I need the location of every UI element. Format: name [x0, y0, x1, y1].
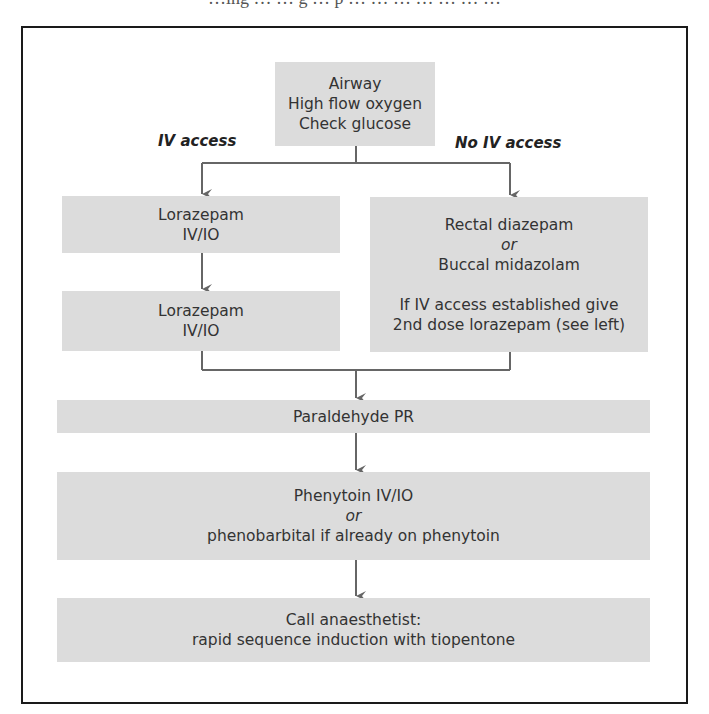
lorazepam2-line-1: Lorazepam — [158, 301, 244, 321]
right-note-line-1: If IV access established give — [400, 295, 619, 315]
anaesthetist-line-1: Call anaesthetist: — [286, 610, 422, 630]
phenytoin-line-or: or — [346, 506, 362, 526]
phenytoin-box: Phenytoin IV/IO or phenobarbital if alre… — [57, 472, 650, 560]
right-note-line-2: 2nd dose lorazepam (see left) — [393, 315, 625, 335]
start-box-airway-oxygen-glucose: Airway High flow oxygen Check glucose — [275, 62, 435, 146]
start-line-2: High flow oxygen — [288, 94, 422, 114]
call-anaesthetist-box: Call anaesthetist: rapid sequence induct… — [57, 598, 650, 662]
lorazepam-first-dose-box: Lorazepam IV/IO — [62, 196, 340, 253]
start-line-1: Airway — [329, 74, 382, 94]
branch-label-no-iv-access: No IV access — [455, 134, 561, 152]
paraldehyde-line: Paraldehyde PR — [293, 407, 414, 427]
lorazepam-second-dose-box: Lorazepam IV/IO — [62, 291, 340, 351]
branch-label-iv-access: IV access — [158, 132, 236, 150]
lorazepam2-line-2: IV/IO — [182, 321, 219, 341]
lorazepam1-line-2: IV/IO — [182, 225, 219, 245]
paraldehyde-box: Paraldehyde PR — [57, 400, 650, 433]
rectal-diazepam-buccal-midazolam-box: Rectal diazepam or Buccal midazolam If I… — [370, 197, 648, 352]
right-line-or: or — [501, 235, 517, 255]
lorazepam1-line-1: Lorazepam — [158, 205, 244, 225]
phenytoin-line-1: Phenytoin IV/IO — [294, 486, 414, 506]
right-line-3: Buccal midazolam — [438, 255, 580, 275]
start-line-3: Check glucose — [299, 114, 411, 134]
phenytoin-line-3: phenobarbital if already on phenytoin — [207, 526, 500, 546]
right-line-1: Rectal diazepam — [445, 215, 574, 235]
anaesthetist-line-2: rapid sequence induction with tiopentone — [192, 630, 515, 650]
